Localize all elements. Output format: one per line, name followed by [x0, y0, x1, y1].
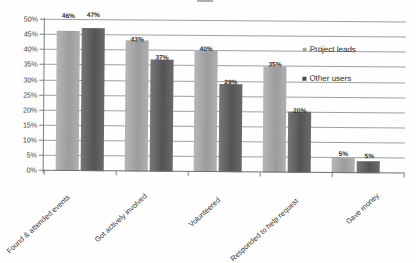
legend-swatch-icon — [302, 76, 306, 80]
clipped-title-fragment — [197, 0, 213, 2]
plot-area: 46% 47% 43% 37% 40% 29% 35% 20% 5% 5% — [44, 19, 406, 174]
legend-label: Project leads — [310, 45, 356, 54]
data-label: 5% — [352, 152, 387, 159]
x-axis-label-gave-money: Gave money — [345, 192, 381, 226]
bar-project-leads-responded-to-help-request[interactable] — [263, 66, 287, 173]
data-label: 43% — [120, 35, 155, 42]
bar-project-leads-found-attended-events[interactable] — [56, 31, 80, 171]
y-axis-label: 30% — [4, 76, 37, 83]
y-axis-label: 0% — [4, 166, 37, 173]
x-axis-label-responded-to-help-request: Responded to help request — [229, 197, 300, 263]
y-axis-label: 45% — [5, 30, 38, 37]
y-axis-label: 35% — [4, 60, 37, 67]
legend-label: Other users — [309, 74, 351, 83]
data-label: 20% — [282, 107, 317, 114]
bar-other-users-found-attended-events[interactable] — [81, 28, 105, 171]
data-label: 29% — [213, 78, 248, 85]
bar-project-leads-gave-money[interactable] — [332, 158, 355, 173]
y-axis-label: 50% — [5, 15, 38, 22]
bar-chart: 50% 45% 40% 35% 30% 25% 20% 15% 10% 5% 0… — [0, 0, 416, 263]
x-axis-label-found-attended-events: Found & attended events — [5, 194, 71, 256]
data-label: 47% — [76, 11, 111, 18]
chart-canvas: 50% 45% 40% 35% 30% 25% 20% 15% 10% 5% 0… — [0, 0, 416, 263]
x-axis-label-volunteered: Volunteered — [188, 196, 222, 229]
data-label: 40% — [189, 45, 224, 52]
bar-other-users-responded-to-help-request[interactable] — [288, 112, 311, 173]
bar-other-users-volunteered[interactable] — [219, 84, 243, 172]
data-label: 37% — [145, 53, 180, 60]
y-axis-label: 20% — [4, 106, 37, 113]
gridlines — [45, 19, 406, 22]
y-axis-label: 25% — [4, 91, 37, 98]
y-axis-label: 5% — [4, 151, 37, 158]
legend-item-project-leads[interactable]: Project leads — [303, 45, 356, 54]
bar-project-leads-volunteered[interactable] — [194, 50, 218, 172]
y-axis-label: 10% — [4, 136, 37, 143]
legend-swatch-icon — [303, 47, 307, 51]
bar-other-users-got-actively-involved[interactable] — [150, 59, 174, 172]
x-axis-label-got-actively-involved: Got actively involved — [93, 192, 148, 244]
y-axis-label: 15% — [4, 121, 37, 128]
legend-item-other-users[interactable]: Other users — [302, 74, 351, 83]
data-label: 35% — [258, 60, 293, 67]
y-axis-label: 40% — [5, 45, 38, 52]
